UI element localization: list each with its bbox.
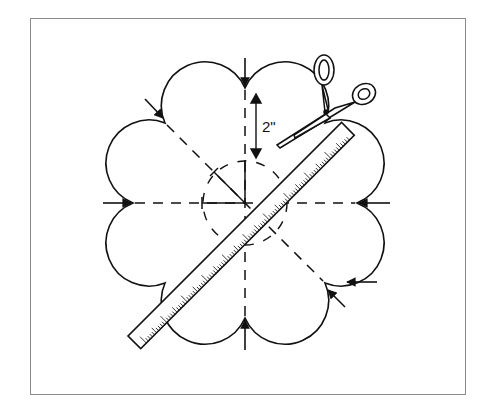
dimension-label: 2" (262, 118, 276, 135)
illustration (0, 0, 484, 403)
dimension-arrow (251, 94, 261, 158)
ruler (128, 122, 354, 348)
